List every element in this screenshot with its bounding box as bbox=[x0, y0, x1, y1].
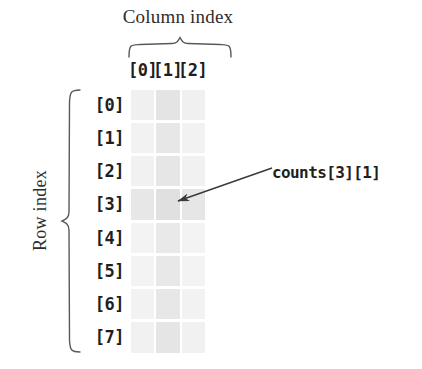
array-grid-row bbox=[130, 321, 206, 354]
array-cell[interactable] bbox=[156, 90, 179, 120]
array-cell[interactable] bbox=[131, 123, 154, 153]
array-cell[interactable] bbox=[182, 289, 205, 319]
column-label-0: [0] bbox=[128, 60, 153, 80]
array-grid-row bbox=[130, 221, 206, 254]
row-label-3: [3] bbox=[88, 188, 128, 221]
array-cell[interactable] bbox=[182, 256, 205, 286]
row-label-4: [4] bbox=[88, 221, 128, 254]
row-index-title: Row index bbox=[30, 151, 51, 271]
row-label-6: [6] bbox=[88, 288, 128, 321]
array-grid-row bbox=[130, 254, 206, 287]
column-label-1: [1] bbox=[153, 60, 178, 80]
array-cell[interactable] bbox=[182, 322, 205, 352]
column-label-2: [2] bbox=[178, 60, 203, 80]
array-index-diagram: Column index [0] [1] [2] Row index [0] [… bbox=[0, 0, 422, 369]
array-cell[interactable] bbox=[131, 256, 154, 286]
array-grid-row bbox=[130, 288, 206, 321]
array-cell[interactable] bbox=[131, 156, 154, 186]
array-grid-row bbox=[130, 121, 206, 154]
column-brace-icon bbox=[126, 36, 234, 58]
row-label-1: [1] bbox=[88, 121, 128, 154]
array-cell[interactable] bbox=[156, 289, 179, 319]
array-cell[interactable] bbox=[156, 322, 179, 352]
row-labels: [0] [1] [2] [3] [4] [5] [6] [7] bbox=[88, 88, 128, 354]
annotation-label: counts[3][1] bbox=[272, 163, 380, 182]
array-cell[interactable] bbox=[131, 189, 154, 219]
row-label-2: [2] bbox=[88, 155, 128, 188]
array-cell[interactable] bbox=[156, 223, 179, 253]
array-cell[interactable] bbox=[131, 90, 154, 120]
array-cell[interactable] bbox=[131, 322, 154, 352]
annotation-arrow-icon bbox=[160, 160, 290, 215]
array-cell[interactable] bbox=[182, 90, 205, 120]
row-brace-icon bbox=[56, 88, 82, 354]
array-cell[interactable] bbox=[182, 123, 205, 153]
array-cell[interactable] bbox=[156, 123, 179, 153]
array-grid bbox=[130, 88, 206, 354]
column-labels: [0] [1] [2] bbox=[128, 60, 230, 80]
array-cell[interactable] bbox=[131, 223, 154, 253]
row-label-7: [7] bbox=[88, 321, 128, 354]
array-cell[interactable] bbox=[182, 223, 205, 253]
array-grid-row bbox=[130, 88, 206, 121]
row-label-0: [0] bbox=[88, 88, 128, 121]
row-label-5: [5] bbox=[88, 254, 128, 287]
array-cell[interactable] bbox=[131, 289, 154, 319]
column-index-title: Column index bbox=[98, 6, 258, 28]
array-cell[interactable] bbox=[156, 256, 179, 286]
